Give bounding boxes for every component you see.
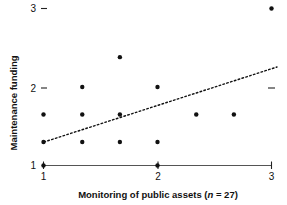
data-point — [155, 85, 159, 89]
y-axis-ticks — [41, 9, 47, 89]
x-tick-label-3: 3 — [269, 171, 275, 182]
data-point — [118, 140, 122, 144]
data-point — [155, 140, 159, 144]
data-point — [80, 85, 84, 89]
data-points-group — [41, 6, 273, 167]
data-point — [80, 140, 84, 144]
y-axis-title: Maintenance funding — [8, 55, 19, 150]
chart-canvas: 3 2 1 1 2 3 Maintenance funding Monitori… — [0, 0, 287, 205]
data-point — [41, 112, 45, 116]
scatter-plot-figure: 3 2 1 1 2 3 Maintenance funding Monitori… — [0, 0, 287, 205]
data-point — [41, 163, 45, 167]
x-axis-title-prefix: Monitoring of public assets ( — [78, 189, 208, 200]
data-point — [155, 163, 159, 167]
data-point — [118, 112, 122, 116]
y-tick-label-1: 1 — [30, 160, 36, 171]
data-point — [269, 6, 273, 10]
x-tick-label-1: 1 — [41, 171, 47, 182]
data-point — [80, 112, 84, 116]
data-point — [194, 112, 198, 116]
x-tick-label-2: 2 — [155, 171, 161, 182]
y-tick-label-2: 2 — [30, 83, 36, 94]
trend-line — [44, 67, 277, 142]
x-axis-title: Monitoring of public assets (n = 27) — [78, 189, 238, 200]
data-point — [118, 55, 122, 59]
y-tick-label-3: 3 — [30, 3, 36, 14]
data-point — [41, 140, 45, 144]
data-point — [232, 112, 236, 116]
x-axis-title-suffix: = 27) — [213, 189, 238, 200]
